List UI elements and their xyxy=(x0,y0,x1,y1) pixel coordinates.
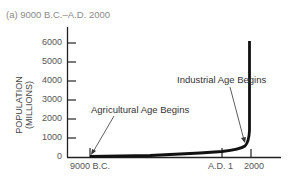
x-tick-2000: 2000 xyxy=(244,161,264,171)
x-tick-9000bc: 9000 B.C. xyxy=(70,161,110,171)
population-curve xyxy=(90,41,250,157)
x-tick-ad1: A.D. 1 xyxy=(208,161,233,171)
annotation-agricultural-age: Agricultural Age Begins xyxy=(91,104,189,115)
annotation-industrial-age: Industrial Age Begins xyxy=(177,74,266,85)
plot-area xyxy=(0,0,294,182)
